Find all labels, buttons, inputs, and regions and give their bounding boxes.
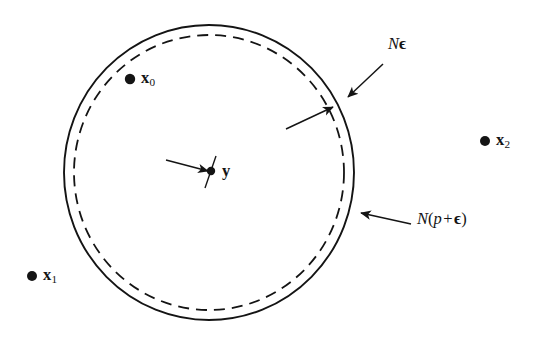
point-dot-y xyxy=(207,167,215,175)
point-label-x1: x1 xyxy=(43,267,57,285)
annulus-gap-arrow xyxy=(286,107,333,129)
diagram-canvas xyxy=(0,0,548,346)
point-label-y: y xyxy=(222,163,230,180)
annotation-label-n-epsilon: Nϵ xyxy=(388,36,406,53)
n-p-plus-epsilon-arrow xyxy=(361,213,411,224)
center-pointer-arrow xyxy=(166,160,208,171)
epsilon-neighborhood-figure: x0 x1 x2 y Nϵ N(p+ϵ) xyxy=(0,0,548,346)
point-dot-x2 xyxy=(480,136,490,146)
point-dot-x0 xyxy=(125,74,135,84)
point-label-x2: x2 xyxy=(496,132,510,150)
annotation-label-n-p-plus-epsilon: N(p+ϵ) xyxy=(417,211,467,228)
point-label-x0: x0 xyxy=(141,70,155,88)
n-epsilon-arrow xyxy=(348,64,383,97)
point-dot-x1 xyxy=(27,271,37,281)
